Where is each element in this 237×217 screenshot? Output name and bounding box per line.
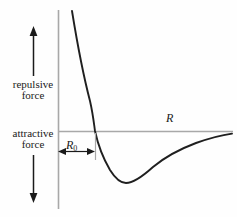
- r0-label: R0: [66, 140, 77, 154]
- repulsive-force-label: repulsive force: [1, 79, 65, 101]
- attractive-force-label: attractive force: [1, 128, 65, 150]
- repulsive-force-label-line2: force: [1, 90, 65, 101]
- attractive-force-label-line2: force: [1, 139, 65, 150]
- attractive-force-arrow: [30, 155, 38, 203]
- force-curve-plot: [0, 0, 237, 217]
- r0-subscript: 0: [73, 144, 77, 153]
- r-axis-label: R: [166, 113, 173, 124]
- interatomic-force-diagram: repulsive force attractive force R R0: [0, 0, 237, 217]
- repulsive-force-arrow: [30, 26, 38, 76]
